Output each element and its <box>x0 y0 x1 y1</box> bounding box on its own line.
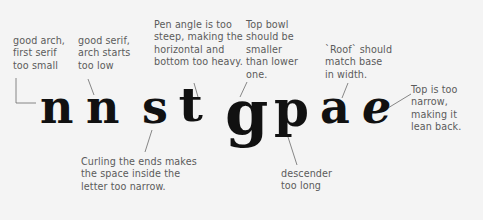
annotation-a: `Roof` should match base in width. <box>325 44 392 81</box>
letter-t: t <box>178 82 202 128</box>
letter-e: e <box>362 84 391 130</box>
annotation-p: descender too long <box>281 168 332 193</box>
annotation-e: Top is too narrow, making it lean back. <box>411 84 461 134</box>
annotation-t: Pen angle is too steep, making the horiz… <box>154 19 243 69</box>
letter-n-first: n <box>40 84 73 130</box>
leader-p <box>288 137 297 165</box>
annotation-n2: good serif, arch starts too low <box>78 35 130 72</box>
letter-s: s <box>142 84 168 130</box>
annotation-s: Curling the ends makes the space inside … <box>81 156 197 193</box>
letter-p: p <box>274 84 309 134</box>
letter-n-second: n <box>86 84 119 130</box>
annotation-g: Top bowl should be smaller than lower on… <box>246 19 298 81</box>
annotation-n1: good arch, first serif too small <box>13 35 65 72</box>
letter-a: a <box>320 84 350 130</box>
letter-g: g <box>225 82 268 144</box>
leader-n1 <box>16 78 36 103</box>
